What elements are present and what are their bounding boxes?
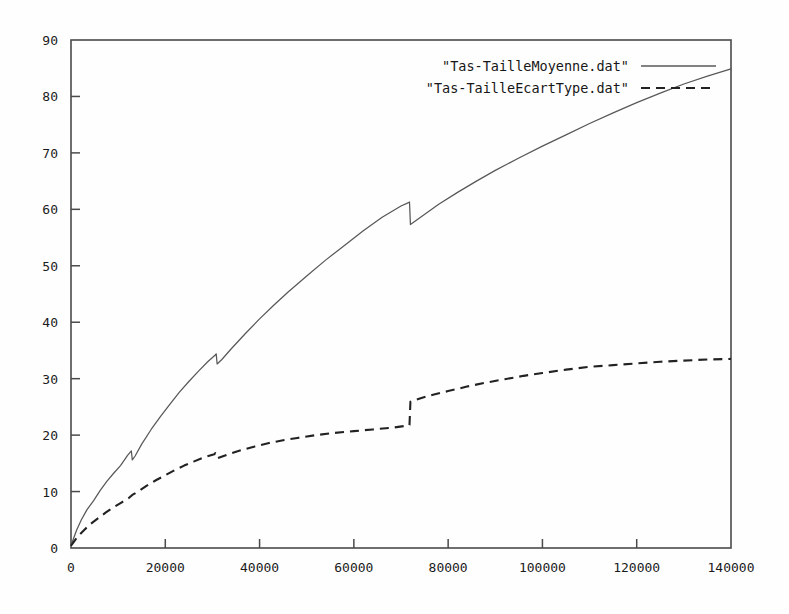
x-tick-label: 60000 [334, 560, 373, 575]
legend-label-2: "Tas-TailleEcartType.dat" [426, 80, 629, 96]
y-tick-label: 30 [42, 372, 58, 387]
x-tick-label: 140000 [708, 560, 755, 575]
x-tick-label: 0 [67, 560, 75, 575]
x-tick-label: 100000 [519, 560, 566, 575]
gnuplot-figure: 0102030405060708090 02000040000600008000… [0, 0, 789, 614]
x-tick-label: 40000 [240, 560, 279, 575]
x-tick-label: 120000 [613, 560, 660, 575]
chart-container: 0102030405060708090 02000040000600008000… [0, 0, 789, 614]
y-tick-label: 60 [42, 202, 58, 217]
y-tick-label: 10 [42, 485, 58, 500]
x-tick-label: 80000 [429, 560, 468, 575]
y-tick-label: 50 [42, 259, 58, 274]
y-tick-label: 70 [42, 146, 58, 161]
y-tick-label: 90 [42, 33, 58, 48]
x-tick-label: 20000 [146, 560, 185, 575]
legend-label-1: "Tas-TailleMoyenne.dat" [442, 58, 629, 74]
y-tick-label: 80 [42, 89, 58, 104]
y-tick-label: 20 [42, 428, 58, 443]
figure-background [0, 0, 789, 614]
y-tick-label: 40 [42, 315, 58, 330]
y-tick-label: 0 [50, 541, 58, 556]
